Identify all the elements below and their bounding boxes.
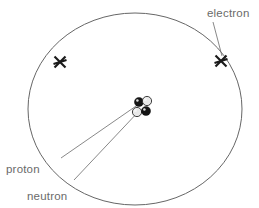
nucleon-proton-2-highlight (143, 108, 146, 111)
nucleon-neutron-1 (142, 96, 151, 105)
neutron-leader-line (74, 110, 140, 180)
proton-leader-line (61, 104, 139, 158)
label-proton: proton (6, 163, 40, 175)
electron-marker-left (54, 57, 67, 68)
electron-marker-right (215, 56, 228, 67)
electron-leader-line (213, 22, 222, 56)
atom-structure-diagram: electron proton neutron (0, 0, 259, 208)
nucleon-neutron-2 (132, 107, 141, 116)
label-electron: electron (207, 7, 250, 19)
nucleon-proton-2 (141, 106, 150, 115)
diagram-canvas: electron proton neutron (0, 0, 259, 208)
nucleon-neutron-2-highlight (134, 109, 137, 112)
label-neutron: neutron (27, 190, 67, 202)
nucleon-proton-1-highlight (136, 99, 139, 102)
nucleon-neutron-1-highlight (144, 98, 147, 101)
